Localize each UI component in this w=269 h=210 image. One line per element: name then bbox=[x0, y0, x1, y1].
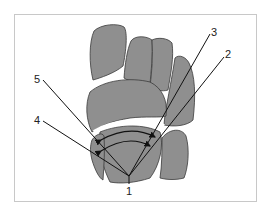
label-2: 2 bbox=[225, 48, 231, 60]
label-5: 5 bbox=[34, 73, 40, 85]
label-1: 1 bbox=[126, 185, 132, 197]
bone-top-mid-1 bbox=[124, 37, 152, 84]
bone-top-left bbox=[90, 25, 126, 80]
label-3: 3 bbox=[211, 26, 217, 38]
wrist-diagram: 1 2 3 4 5 bbox=[0, 0, 269, 210]
label-4: 4 bbox=[34, 114, 40, 126]
bone-lower-right bbox=[160, 130, 188, 179]
bone-top-mid-2 bbox=[150, 38, 173, 90]
